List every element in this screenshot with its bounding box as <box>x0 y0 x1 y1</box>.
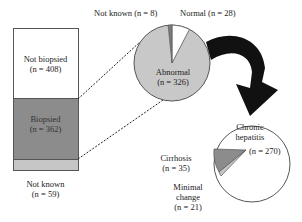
label-text: hepatitis <box>225 132 275 142</box>
label-pie2-cirrhosis: Cirrhosis (n = 35) <box>157 153 195 173</box>
label-pie1-not-known: Not known (n = 8) <box>94 8 157 18</box>
label-pie1-normal: Normal (n = 28) <box>180 8 236 18</box>
label-text: Chronic <box>225 122 275 132</box>
label-pie2-chronic: Chronic hepatitis <box>225 122 275 142</box>
label-pie1-abnormal: Abnormal (n = 326) <box>150 67 196 87</box>
label-pie2-minimal: Minimal change (n = 21) <box>168 182 208 212</box>
label-text: Minimal <box>168 182 208 192</box>
label-text: Cirrhosis <box>157 153 195 163</box>
bar-not-known <box>14 160 79 171</box>
connector-bottom <box>78 100 163 159</box>
label-text: Biopsied <box>13 114 78 124</box>
label-count: (n = 326) <box>150 77 196 87</box>
label-not-biopsied: Not biopsied (n = 408) <box>13 54 78 74</box>
label-biopsied: Biopsied (n = 362) <box>13 114 78 134</box>
arrow-icon <box>206 36 278 116</box>
label-count: (n = 362) <box>13 124 78 134</box>
label-bar-not-known: Not known (n = 59) <box>13 179 78 199</box>
label-text: change <box>168 192 208 202</box>
label-text: Not biopsied <box>13 54 78 64</box>
label-count: (n = 408) <box>13 64 78 74</box>
label-text: Abnormal <box>150 67 196 77</box>
label-count: (n = 59) <box>13 189 78 199</box>
label-pie2-chronic-count: (n = 270) <box>249 146 281 156</box>
pie-biopsy-result <box>134 25 210 101</box>
label-text: Not known <box>13 179 78 189</box>
connector-top <box>78 42 140 99</box>
label-count: (n = 35) <box>157 163 195 173</box>
label-count: (n = 21) <box>168 202 208 212</box>
